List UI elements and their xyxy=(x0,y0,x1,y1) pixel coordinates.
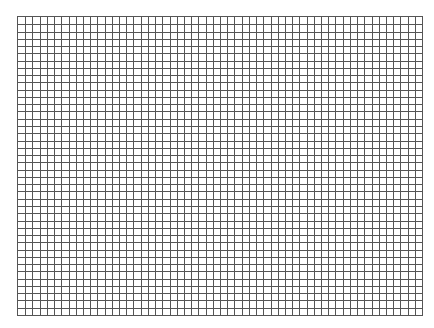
graph-paper-grid xyxy=(17,16,423,316)
grid-lines xyxy=(18,17,422,315)
canvas xyxy=(0,0,434,328)
